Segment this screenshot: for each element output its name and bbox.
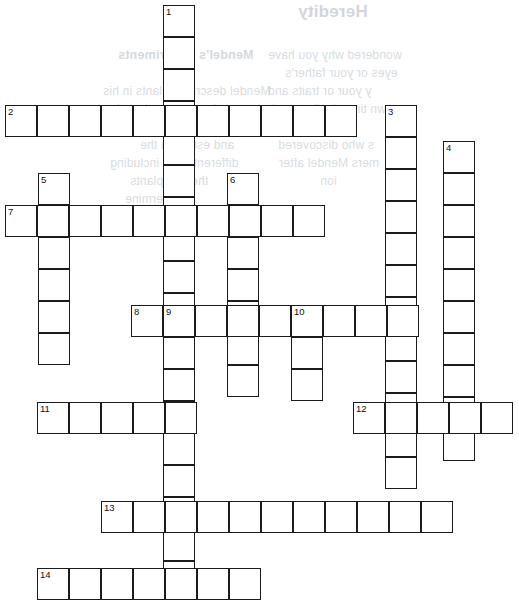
crossword-cell[interactable] (165, 402, 197, 434)
crossword-cell[interactable] (385, 361, 417, 393)
crossword-cell[interactable] (227, 269, 259, 301)
crossword-cell[interactable] (443, 333, 475, 365)
crossword-cell[interactable] (101, 568, 133, 600)
crossword-cell[interactable] (481, 402, 513, 434)
crossword-cell[interactable] (227, 365, 259, 397)
crossword-cell[interactable] (69, 105, 101, 137)
crossword-cell[interactable]: 1 (163, 5, 195, 37)
crossword-cell[interactable] (293, 501, 325, 533)
crossword-cell[interactable] (197, 205, 229, 237)
crossword-cell[interactable] (385, 169, 417, 201)
crossword-cell[interactable] (197, 568, 229, 600)
crossword-cell[interactable] (259, 305, 291, 337)
crossword-cell[interactable] (443, 173, 475, 205)
cell-number-6: 6 (230, 174, 235, 185)
crossword-cell[interactable] (38, 333, 70, 365)
crossword-cell[interactable] (197, 501, 229, 533)
crossword-cell[interactable] (291, 369, 323, 401)
crossword-cell[interactable] (163, 37, 195, 69)
crossword-cell[interactable]: 6 (227, 173, 259, 205)
crossword-cell[interactable] (163, 465, 195, 497)
crossword-cell[interactable] (443, 205, 475, 237)
crossword-cell[interactable] (101, 402, 133, 434)
crossword-cell[interactable] (69, 568, 101, 600)
crossword-cell[interactable]: 7 (5, 205, 37, 237)
crossword-grid[interactable]: 1234567891011121314 (0, 0, 519, 612)
crossword-cell[interactable] (385, 402, 417, 434)
crossword-cell[interactable] (261, 205, 293, 237)
crossword-cell[interactable] (38, 269, 70, 301)
crossword-cell[interactable]: 9 (163, 305, 195, 337)
crossword-cell[interactable] (133, 501, 165, 533)
crossword-cell[interactable] (227, 333, 259, 365)
crossword-cell[interactable] (163, 529, 195, 561)
crossword-cell[interactable]: 11 (37, 402, 69, 434)
crossword-cell[interactable] (229, 205, 261, 237)
crossword-cell[interactable]: 4 (443, 141, 475, 173)
crossword-cell[interactable] (163, 261, 195, 293)
crossword-cell[interactable] (163, 433, 195, 465)
crossword-cell[interactable] (227, 305, 259, 337)
crossword-cell[interactable] (385, 201, 417, 233)
crossword-cell[interactable] (417, 402, 449, 434)
crossword-cell[interactable] (443, 237, 475, 269)
crossword-cell[interactable] (355, 305, 387, 337)
crossword-cell[interactable] (165, 501, 197, 533)
crossword-cell[interactable] (325, 501, 357, 533)
crossword-cell[interactable] (38, 301, 70, 333)
crossword-cell[interactable] (133, 105, 165, 137)
crossword-cell[interactable]: 14 (37, 568, 69, 600)
cell-number-11: 11 (40, 403, 50, 414)
crossword-cell[interactable] (293, 205, 325, 237)
crossword-cell[interactable] (293, 105, 325, 137)
crossword-cell[interactable] (165, 105, 197, 137)
crossword-cell[interactable] (387, 305, 419, 337)
crossword-cell[interactable] (323, 305, 355, 337)
crossword-cell[interactable] (165, 205, 197, 237)
crossword-cell[interactable] (443, 365, 475, 397)
crossword-cell[interactable] (133, 205, 165, 237)
crossword-cell[interactable] (163, 165, 195, 197)
crossword-cell[interactable] (385, 137, 417, 169)
crossword-cell[interactable] (357, 501, 389, 533)
crossword-cell[interactable]: 2 (5, 105, 37, 137)
crossword-cell[interactable]: 13 (101, 501, 133, 533)
crossword-cell[interactable]: 10 (291, 305, 323, 337)
crossword-cell[interactable] (133, 402, 165, 434)
crossword-cell[interactable] (37, 105, 69, 137)
crossword-cell[interactable] (229, 568, 261, 600)
crossword-cell[interactable] (229, 501, 261, 533)
crossword-cell[interactable] (38, 237, 70, 269)
crossword-cell[interactable]: 3 (385, 105, 417, 137)
crossword-cell[interactable] (69, 205, 101, 237)
crossword-cell[interactable] (197, 105, 229, 137)
crossword-cell[interactable] (195, 305, 227, 337)
crossword-cell[interactable] (163, 69, 195, 101)
crossword-cell[interactable] (229, 105, 261, 137)
crossword-cell[interactable] (133, 568, 165, 600)
crossword-cell[interactable] (325, 105, 357, 137)
crossword-cell[interactable] (163, 337, 195, 369)
crossword-cell[interactable] (163, 133, 195, 165)
crossword-cell[interactable] (163, 369, 195, 401)
crossword-cell[interactable] (101, 105, 133, 137)
crossword-cell[interactable] (227, 237, 259, 269)
crossword-cell[interactable] (261, 105, 293, 137)
crossword-cell[interactable]: 12 (353, 402, 385, 434)
crossword-cell[interactable] (291, 337, 323, 369)
crossword-cell[interactable] (385, 457, 417, 489)
crossword-cell[interactable] (389, 501, 421, 533)
crossword-cell[interactable] (69, 402, 101, 434)
crossword-cell[interactable] (421, 501, 453, 533)
crossword-cell[interactable] (443, 269, 475, 301)
crossword-cell[interactable] (385, 265, 417, 297)
crossword-cell[interactable] (261, 501, 293, 533)
crossword-cell[interactable]: 8 (131, 305, 163, 337)
crossword-cell[interactable] (449, 402, 481, 434)
crossword-cell[interactable] (37, 205, 69, 237)
crossword-cell[interactable] (443, 301, 475, 333)
crossword-cell[interactable] (165, 568, 197, 600)
crossword-cell[interactable] (385, 233, 417, 265)
crossword-cell[interactable]: 5 (38, 173, 70, 205)
crossword-cell[interactable] (101, 205, 133, 237)
